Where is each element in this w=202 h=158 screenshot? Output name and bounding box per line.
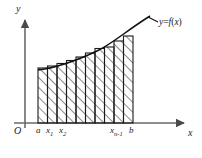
curve-label-close-paren: ) [179,17,182,27]
rectangle-10 [124,36,134,123]
rectangle-7 [95,49,105,124]
tick-label-xn-1: xn-1 [110,126,123,137]
tick-label-a: a [36,126,41,135]
tick-label-x2-sub: 2 [63,130,66,137]
rectangle-9 [114,41,124,123]
tick-label-x1-sub: 1 [50,130,53,137]
tick-label-x1: x1 [46,126,53,137]
rectangle-1 [38,68,48,123]
rectangle-5 [76,57,86,123]
curve-label-leader-line [148,17,158,22]
rectangle-8 [105,47,115,123]
x-axis-label: x [188,128,192,138]
tick-label-x2: x2 [59,126,66,137]
y-axis-label: y [16,4,20,14]
rectangle-2 [48,66,58,123]
origin-label: O [14,126,21,136]
riemann-sum-figure: y x O y=f(x) a x1 x2 xn-1 b [0,0,202,158]
rectangle-3 [57,64,67,124]
riemann-rectangles [38,36,133,123]
rectangle-6 [86,53,96,123]
tick-label-b: b [129,126,134,135]
tick-label-xn-1-sub: n-1 [114,130,123,137]
curve-function-label: y=f(x) [159,18,182,28]
rectangle-4 [67,61,77,124]
